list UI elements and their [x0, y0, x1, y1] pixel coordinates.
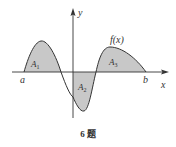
- x-axis-label: x: [160, 79, 166, 90]
- y-axis-label: y: [77, 7, 83, 18]
- function-label: f(x): [110, 34, 125, 46]
- point-a-label: a: [20, 74, 25, 85]
- area-under-curve-diagram: y x a b f(x) A1 A2 A3 6 题: [0, 0, 176, 147]
- point-b-label: b: [143, 74, 148, 85]
- figure-caption: 6 题: [80, 129, 97, 139]
